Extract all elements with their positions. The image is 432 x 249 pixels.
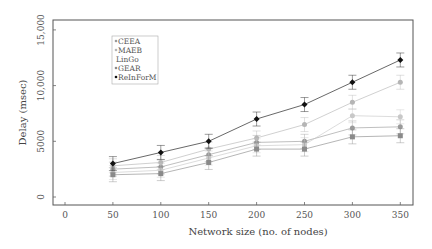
chart: 0501001502002503003500500010,00015,000 N… xyxy=(0,0,432,249)
legend-item-lingo: LinGo xyxy=(116,55,139,64)
y-tick-label: 5000 xyxy=(36,130,46,153)
square-marker-icon xyxy=(206,160,211,165)
legend-label: ReInForM xyxy=(118,73,157,82)
legend-label: MAEB xyxy=(118,46,143,55)
square-marker-icon xyxy=(350,134,355,139)
x-tick-label: 200 xyxy=(248,210,265,220)
diamond-marker-icon xyxy=(397,57,403,63)
square-marker-icon xyxy=(302,147,307,152)
x-axis-label: Network size (no. of nodes) xyxy=(188,226,327,237)
y-tick-label: 0 xyxy=(36,194,46,200)
y-axis-label: Delay (msec) xyxy=(17,79,28,145)
x-tick-label: 100 xyxy=(152,210,169,220)
x-tick-label: 0 xyxy=(62,210,68,220)
legend-item-gear: GEAR xyxy=(115,64,141,73)
plot-frame xyxy=(53,20,413,205)
diamond-marker-icon xyxy=(302,102,308,108)
diamond-marker-icon xyxy=(349,79,355,85)
diamond-marker-icon xyxy=(158,149,164,155)
legend-label: LinGo xyxy=(116,55,139,64)
legend-item-ceea: CEEA xyxy=(115,37,141,46)
circle-marker-icon xyxy=(398,114,403,119)
square-marker-icon xyxy=(110,172,115,177)
diamond-marker-icon xyxy=(206,138,212,144)
x-tick-label: 50 xyxy=(107,210,119,220)
square-marker-icon xyxy=(398,133,403,138)
x-tick-label: 250 xyxy=(296,210,313,220)
y-tick-label: 10,000 xyxy=(36,70,46,102)
legend-label: GEAR xyxy=(118,64,141,73)
legend-item-reinform: ReInForM xyxy=(115,73,157,82)
legend-label: CEEA xyxy=(118,37,141,46)
diamond-marker-icon xyxy=(254,116,260,122)
x-tick-label: 300 xyxy=(344,210,361,220)
circle-marker-icon xyxy=(350,113,355,118)
x-tick-label: 350 xyxy=(392,210,409,220)
legend-item-maeb: MAEB xyxy=(115,46,143,55)
x-tick-label: 150 xyxy=(200,210,217,220)
circle-marker-icon xyxy=(350,100,355,105)
circle-marker-icon xyxy=(398,80,403,85)
y-tick-label: 15,000 xyxy=(36,14,46,46)
square-marker-icon xyxy=(254,147,259,152)
square-marker-icon xyxy=(158,171,163,176)
circle-marker-icon xyxy=(302,122,307,127)
